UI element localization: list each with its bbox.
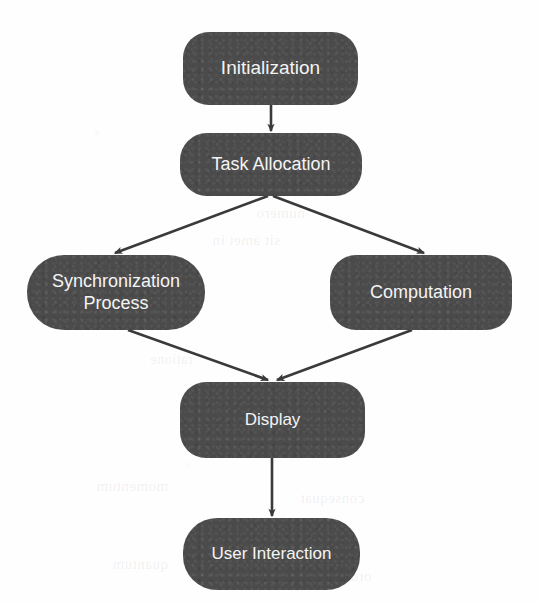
node-synchronization-process-label: Synchronization Process	[42, 271, 190, 313]
edge-synchronization-to-display	[128, 330, 268, 380]
node-user-interaction[interactable]: User Interaction	[183, 518, 360, 590]
node-task-allocation[interactable]: Task Allocation	[180, 133, 362, 196]
edge-task-allocation-to-computation	[273, 196, 424, 253]
bleed-through-text: quantum	[112, 556, 168, 573]
bleed-through-text: ratione	[150, 352, 192, 368]
bleed-through-text: numero	[256, 205, 305, 222]
bleed-through-text: sit amet in	[212, 232, 280, 249]
bleed-through-text: momentum	[96, 478, 168, 495]
node-initialization[interactable]: Initialization	[183, 32, 358, 105]
edge-computation-to-display	[277, 330, 412, 380]
node-synchronization-process[interactable]: Synchronization Process	[27, 255, 205, 330]
node-display-label: Display	[235, 410, 311, 430]
bleed-through-text: consequat	[300, 490, 364, 507]
node-computation[interactable]: Computation	[330, 255, 512, 330]
node-task-allocation-label: Task Allocation	[201, 154, 340, 175]
node-user-interaction-label: User Interaction	[202, 544, 342, 564]
node-computation-label: Computation	[360, 282, 482, 303]
edge-task-allocation-to-synchronization	[115, 196, 268, 253]
node-initialization-label: Initialization	[211, 57, 330, 79]
node-display[interactable]: Display	[180, 382, 365, 458]
flowchart-canvas: aqua nopalister reliquisnumerosit amet i…	[0, 0, 539, 604]
